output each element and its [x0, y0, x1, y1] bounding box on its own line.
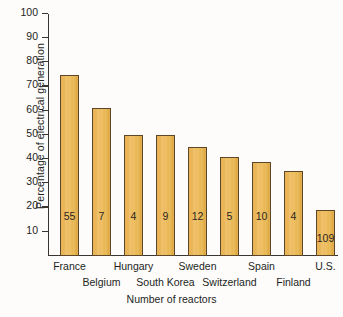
- y-tick-80: 80: [42, 61, 48, 62]
- y-tick-60: 60: [42, 110, 48, 111]
- plot-area: 102030405060708090100 55749125104109: [48, 14, 338, 256]
- y-tick-90: 90: [42, 37, 48, 38]
- bar-value-label-4: 12: [192, 210, 204, 222]
- x-category-label-switzerland: Switzerland: [202, 276, 256, 288]
- y-tick-label-40: 40: [26, 151, 38, 163]
- y-tick-40: 40: [42, 158, 48, 159]
- bar-hungary: [124, 135, 143, 256]
- y-tick-label-70: 70: [26, 78, 38, 90]
- bar-belgium: [92, 108, 111, 256]
- y-tick-label-20: 20: [26, 199, 38, 211]
- bar-value-label-2: 4: [131, 210, 137, 222]
- x-category-label-hungary: Hungary: [114, 260, 154, 272]
- x-category-label-u-s-: U.S.: [315, 260, 335, 272]
- bar-value-label-6: 10: [256, 210, 268, 222]
- y-tick-label-100: 100: [20, 6, 38, 18]
- y-tick-label-10: 10: [26, 224, 38, 236]
- y-tick-label-50: 50: [26, 127, 38, 139]
- bar-switzerland: [220, 157, 239, 256]
- x-axis-title: Number of reactors: [0, 293, 343, 305]
- bar-value-label-5: 5: [227, 210, 233, 222]
- bar-value-label-0: 55: [64, 210, 76, 222]
- y-tick-label-80: 80: [26, 54, 38, 66]
- bar-sweden: [188, 147, 207, 256]
- y-tick-20: 20: [42, 206, 48, 207]
- bar-value-label-8: 109: [317, 232, 335, 244]
- y-tick-label-30: 30: [26, 175, 38, 187]
- x-category-label-sweden: Sweden: [179, 260, 217, 272]
- x-category-label-spain: Spain: [248, 260, 275, 272]
- x-category-label-finland: Finland: [276, 276, 310, 288]
- bar-value-label-1: 7: [99, 210, 105, 222]
- y-tick-70: 70: [42, 85, 48, 86]
- y-tick-label-90: 90: [26, 30, 38, 42]
- y-tick-10: 10: [42, 231, 48, 232]
- y-tick-30: 30: [42, 182, 48, 183]
- bar-south-korea: [156, 135, 175, 256]
- y-axis-line: [48, 14, 49, 256]
- bar-value-label-7: 4: [291, 210, 297, 222]
- y-tick-label-60: 60: [26, 103, 38, 115]
- x-category-label-belgium: Belgium: [83, 276, 121, 288]
- x-category-label-france: France: [53, 260, 86, 272]
- y-tick-50: 50: [42, 134, 48, 135]
- y-tick-100: 100: [42, 13, 48, 14]
- bar-chart-figure: Percentage of electrical generation 1020…: [0, 0, 343, 317]
- bar-france: [60, 75, 79, 257]
- x-category-label-south-korea: South Korea: [136, 276, 194, 288]
- bar-value-label-3: 9: [163, 210, 169, 222]
- bar-spain: [252, 162, 271, 256]
